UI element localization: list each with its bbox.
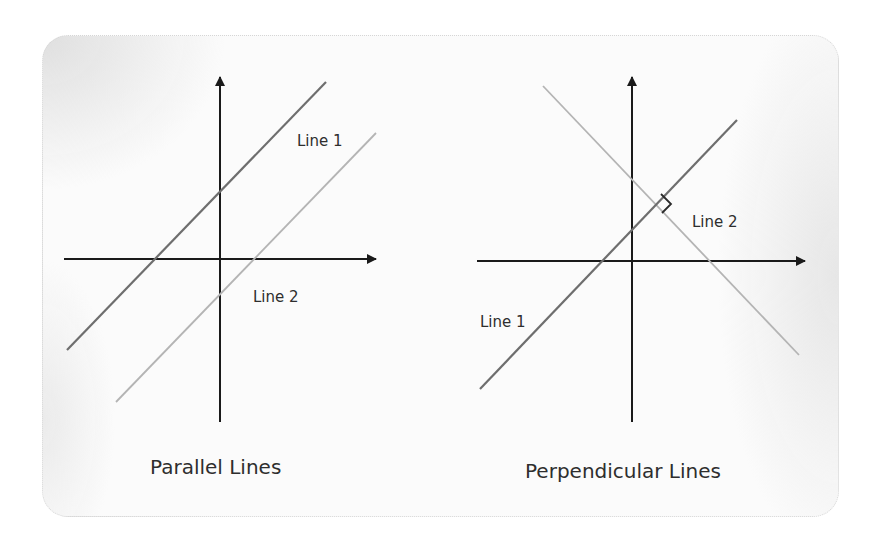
right-line-2-label: Line 2	[692, 213, 738, 231]
left-line-1	[67, 82, 326, 350]
right-line-2	[543, 86, 799, 355]
right-line-1	[480, 120, 737, 389]
right-line-1-label: Line 1	[480, 313, 526, 331]
left-line-2-label: Line 2	[253, 288, 299, 306]
lines-diagram: Line 1 Line 2 Parallel Lines Line 1 Line…	[0, 0, 873, 545]
left-line-2	[116, 133, 376, 402]
parallel-lines-diagram: Line 1 Line 2 Parallel Lines	[64, 77, 376, 479]
perpendicular-lines-diagram: Line 1 Line 2 Perpendicular Lines	[477, 77, 805, 483]
left-line-1-label: Line 1	[297, 132, 343, 150]
perpendicular-lines-title: Perpendicular Lines	[525, 459, 721, 483]
parallel-lines-title: Parallel Lines	[150, 455, 281, 479]
